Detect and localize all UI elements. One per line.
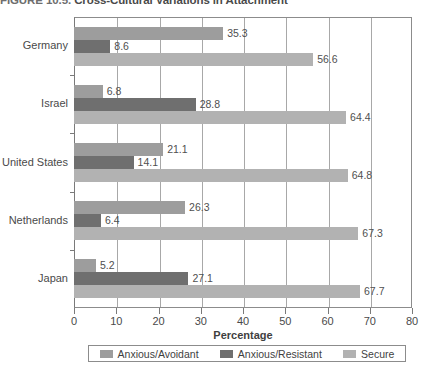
figure-title: FIGURE 10.5. Cross-Cultural Variations i… [0, 0, 439, 8]
bar-row: 6.8 [74, 85, 412, 98]
x-axis-tick-label: 70 [355, 315, 385, 327]
bar[interactable] [74, 259, 96, 272]
x-axis-tick [370, 308, 371, 314]
bar-value-label: 14.1 [134, 155, 158, 169]
bar-row: 5.2 [74, 259, 412, 272]
x-axis-tick-label: 20 [144, 315, 174, 327]
legend-swatch-icon [100, 350, 113, 358]
x-axis-tick [159, 308, 160, 314]
x-axis-tick-label: 30 [186, 315, 216, 327]
y-axis-tick [70, 133, 74, 134]
y-axis-tick [70, 250, 74, 251]
bar-value-label: 27.1 [188, 271, 212, 285]
legend-swatch-icon [343, 350, 356, 358]
bar-value-label: 67.3 [358, 226, 382, 240]
bar-value-label: 21.1 [163, 142, 187, 156]
legend-item[interactable]: Secure [343, 348, 394, 360]
bar[interactable] [74, 214, 101, 227]
bar[interactable] [74, 53, 313, 66]
bar-value-label: 5.2 [96, 258, 115, 272]
bar-value-label: 6.4 [101, 213, 120, 227]
bar[interactable] [74, 201, 185, 214]
y-axis-category-label: Israel [0, 97, 68, 109]
bar[interactable] [74, 111, 346, 124]
x-axis-title: Percentage [74, 329, 412, 341]
bar[interactable] [74, 27, 223, 40]
bar[interactable] [74, 98, 196, 111]
y-axis-category-label: Japan [0, 272, 68, 284]
x-axis-tick [74, 308, 75, 314]
bar-row: 21.1 [74, 143, 412, 156]
chart-legend: Anxious/AvoidantAnxious/ResistantSecure [88, 345, 406, 362]
legend-item[interactable]: Anxious/Avoidant [100, 348, 199, 360]
bar-value-label: 26.3 [185, 200, 209, 214]
bar-value-label: 64.8 [348, 168, 372, 182]
x-axis-tick-label: 60 [313, 315, 343, 327]
bar[interactable] [74, 156, 134, 169]
x-axis-tick [328, 308, 329, 314]
bar[interactable] [74, 169, 348, 182]
bar[interactable] [74, 285, 360, 298]
x-axis-tick-label: 0 [59, 315, 89, 327]
x-axis-tick-label: 40 [228, 315, 258, 327]
bar-value-label: 35.3 [223, 26, 247, 40]
bar-row: 8.6 [74, 40, 412, 53]
x-axis-tick [412, 308, 413, 314]
bar-value-label: 56.6 [313, 52, 337, 66]
legend-label: Anxious/Resistant [238, 348, 322, 360]
bar-row: 64.8 [74, 169, 412, 182]
bar-value-label: 6.8 [103, 84, 122, 98]
legend-swatch-icon [220, 350, 233, 358]
bar-value-label: 8.6 [110, 39, 129, 53]
bar-row: 67.7 [74, 285, 412, 298]
bar[interactable] [74, 40, 110, 53]
bar-row: 26.3 [74, 201, 412, 214]
legend-label: Secure [361, 348, 394, 360]
bar-value-label: 28.8 [196, 97, 220, 111]
y-axis-tick [70, 192, 74, 193]
figure-container: FIGURE 10.5. Cross-Cultural Variations i… [0, 0, 439, 365]
x-axis-tick [116, 308, 117, 314]
bar[interactable] [74, 272, 188, 285]
y-axis-category-label: Germany [0, 39, 68, 51]
figure-number: FIGURE 10.5. [0, 0, 71, 6]
y-axis-category-label: United States [0, 156, 68, 168]
bar-row: 67.3 [74, 227, 412, 240]
x-axis-tick [201, 308, 202, 314]
bar-row: 64.4 [74, 111, 412, 124]
x-axis-tick [285, 308, 286, 314]
legend-label: Anxious/Avoidant [118, 348, 199, 360]
bar-value-label: 64.4 [346, 110, 370, 124]
bar-value-label: 67.7 [360, 284, 384, 298]
y-axis-category-label: Netherlands [0, 214, 68, 226]
y-axis-tick [70, 75, 74, 76]
x-axis-tick [243, 308, 244, 314]
x-axis-tick-label: 80 [397, 315, 427, 327]
legend-item[interactable]: Anxious/Resistant [220, 348, 322, 360]
bar[interactable] [74, 85, 103, 98]
bar[interactable] [74, 227, 358, 240]
x-axis-tick-label: 50 [270, 315, 300, 327]
x-axis-tick-label: 10 [101, 315, 131, 327]
bar-row: 56.6 [74, 53, 412, 66]
figure-title-text: Cross-Cultural Variations in Attachment [74, 0, 288, 6]
